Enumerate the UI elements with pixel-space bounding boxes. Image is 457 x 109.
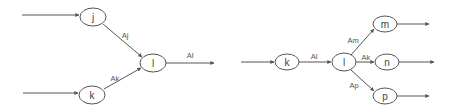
node-m: m	[373, 16, 397, 32]
node-p-label: p	[382, 91, 388, 102]
node-l-label: l	[343, 57, 345, 68]
edge-j-to-l	[103, 24, 142, 57]
node-l-label: l	[152, 58, 154, 69]
diagram-canvas: j l k Aj Ak Al k l m	[0, 0, 457, 109]
edge-label-aj: Aj	[122, 31, 129, 40]
edge-label-am: Am	[347, 36, 358, 45]
node-l: l	[140, 54, 166, 72]
node-k: k	[79, 86, 105, 104]
node-j-label: j	[91, 12, 94, 23]
edge-label-ap: Ap	[349, 81, 358, 90]
node-n: n	[375, 54, 399, 70]
split-diagram: k l m n p Al Am Ak Ap	[241, 16, 434, 104]
edge-label-ak: Ak	[111, 74, 120, 83]
node-l: l	[332, 53, 356, 71]
node-p: p	[373, 88, 397, 104]
node-n-label: n	[384, 57, 390, 68]
edge-label-al: Al	[187, 51, 194, 60]
edge-k-to-l	[104, 68, 141, 89]
node-m-label: m	[381, 19, 389, 30]
edge-label-ak: Ak	[362, 53, 371, 62]
node-j: j	[80, 8, 106, 26]
node-k: k	[275, 54, 299, 70]
edge-label-al: Al	[311, 52, 318, 61]
merge-diagram: j l k Aj Ak Al	[22, 8, 214, 104]
